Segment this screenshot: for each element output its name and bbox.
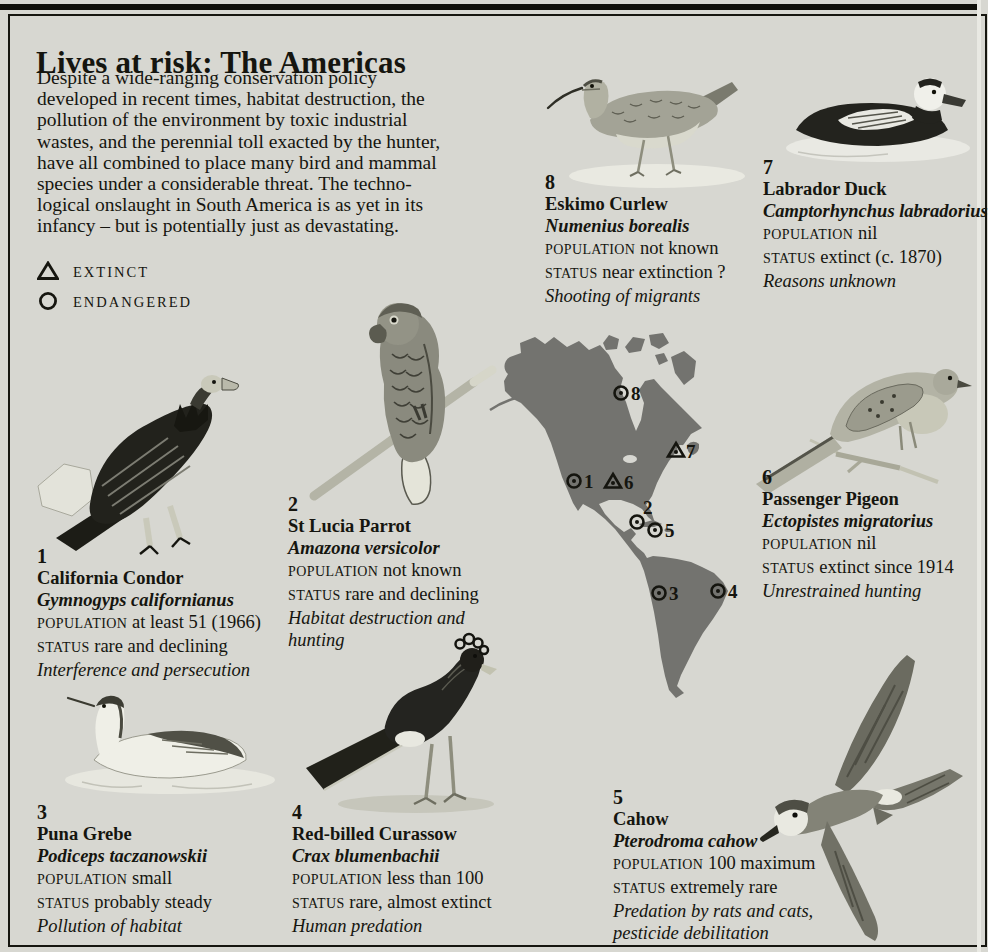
species-population: POPULATION 100 maximum	[613, 852, 851, 876]
species-status: STATUS extremely rare	[613, 876, 851, 900]
caption-puna-grebe: 3 Puna Grebe Podiceps taczanowskii POPUL…	[37, 801, 277, 937]
species-status: STATUS extinct (c. 1870)	[763, 246, 981, 270]
caption-st-lucia-parrot: 2 St Lucia Parrot Amazona versicolor POP…	[288, 493, 486, 651]
americas-map-svg: 87162534	[488, 328, 788, 723]
species-name: Passenger Pigeon	[762, 488, 981, 510]
species-name: Labrador Duck	[763, 178, 981, 200]
species-number: 2	[288, 493, 486, 515]
species-reason: Habitat destruction and hunting	[288, 607, 486, 651]
puna-grebe-illustration	[52, 684, 287, 804]
species-latin: Numenius borealis	[545, 215, 760, 237]
species-population: POPULATION at least 51 (1966)	[37, 611, 277, 635]
americas-map: 87162534	[488, 328, 788, 727]
species-population: POPULATION less than 100	[292, 867, 537, 891]
species-latin: Gymnogyps californianus	[37, 589, 277, 611]
species-status: STATUS probably steady	[37, 891, 277, 915]
species-population: POPULATION small	[37, 867, 277, 891]
species-number: 8	[545, 171, 760, 193]
species-number: 6	[762, 466, 981, 488]
map-marker-label-4: 4	[728, 581, 738, 602]
legend-extinct-label: EXTINCT	[73, 262, 149, 281]
species-status: STATUS rare and declining	[37, 635, 277, 659]
map-marker-label-8: 8	[631, 383, 641, 404]
extinct-triangle-icon	[37, 261, 59, 281]
species-number: 3	[37, 801, 277, 823]
caption-labrador-duck: 7 Labrador Duck Camptorhynchus labradori…	[763, 156, 981, 292]
species-reason: Human predation	[292, 915, 537, 937]
species-latin: Camptorhynchus labradorius	[763, 200, 981, 222]
legend-row-extinct: EXTINCT	[37, 256, 192, 286]
california-condor-illustration	[28, 346, 278, 564]
map-marker-label-5: 5	[665, 520, 675, 541]
labrador-duck-illustration	[778, 56, 981, 168]
map-marker-label-2: 2	[643, 497, 653, 518]
st-lucia-parrot-illustration	[296, 284, 501, 510]
aleutian-islands	[490, 398, 516, 410]
caption-eskimo-curlew: 8 Eskimo Curlew Numenius borealis POPULA…	[545, 171, 760, 307]
map-marker-label-3: 3	[669, 583, 679, 604]
legend-endangered-label: ENDANGERED	[73, 292, 192, 311]
map-marker-label-7: 7	[686, 441, 696, 462]
species-status: STATUS near extinction ?	[545, 261, 760, 285]
legend: EXTINCT ENDANGERED	[37, 256, 192, 316]
species-number: 1	[37, 545, 277, 567]
caption-california-condor: 1 California Condor Gymnogyps california…	[37, 545, 277, 681]
endangered-circle-icon	[37, 291, 59, 311]
species-reason: Pollution of habitat	[37, 915, 277, 937]
species-reason: Unrestrained hunting	[762, 580, 981, 602]
species-latin: Ectopistes migratorius	[762, 510, 981, 532]
species-latin: Pterodroma cahow	[613, 830, 851, 852]
species-name: Puna Grebe	[37, 823, 277, 845]
species-name: Eskimo Curlew	[545, 193, 760, 215]
species-status: STATUS extinct since 1914	[762, 556, 981, 580]
top-rule	[0, 4, 981, 10]
caption-red-billed-curassow: 4 Red-billed Curassow Crax blumenbachii …	[292, 801, 537, 937]
species-name: Cahow	[613, 808, 851, 830]
intro-paragraph: Despite a wide-ranging conservation poli…	[37, 67, 527, 237]
map-marker-label-1: 1	[584, 471, 594, 492]
species-reason: Interference and persecution	[37, 659, 277, 681]
species-name: California Condor	[37, 567, 277, 589]
species-latin: Podiceps taczanowskii	[37, 845, 277, 867]
species-reason: Predation by rats and cats, pesticide de…	[613, 900, 851, 944]
caption-passenger-pigeon: 6 Passenger Pigeon Ectopistes migratoriu…	[762, 466, 981, 602]
species-status: STATUS rare, almost extinct	[292, 891, 537, 915]
legend-row-endangered: ENDANGERED	[37, 286, 192, 316]
species-population: POPULATION nil	[763, 222, 981, 246]
map-marker-5: 5	[649, 520, 675, 541]
species-population: POPULATION not known	[288, 559, 486, 583]
species-population: POPULATION nil	[762, 532, 981, 556]
species-number: 5	[613, 786, 851, 808]
species-status: STATUS rare and declining	[288, 583, 486, 607]
species-reason: Shooting of migrants	[545, 285, 760, 307]
great-lakes	[623, 455, 637, 463]
species-name: Red-billed Curassow	[292, 823, 537, 845]
species-number: 4	[292, 801, 537, 823]
species-number: 7	[763, 156, 981, 178]
caption-cahow: 5 Cahow Pterodroma cahow POPULATION 100 …	[613, 786, 851, 944]
species-latin: Amazona versicolor	[288, 537, 486, 559]
species-reason: Reasons unknown	[763, 270, 981, 292]
species-population: POPULATION not known	[545, 237, 760, 261]
species-latin: Crax blumenbachii	[292, 845, 537, 867]
species-name: St Lucia Parrot	[288, 515, 486, 537]
map-marker-label-6: 6	[624, 472, 634, 493]
